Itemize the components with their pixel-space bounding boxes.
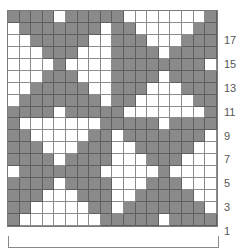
stitch-cell bbox=[43, 107, 55, 119]
stitch-cell bbox=[147, 118, 159, 130]
stitch-cell bbox=[43, 23, 55, 35]
stitch-cell bbox=[101, 83, 113, 95]
stitch-cell bbox=[78, 95, 90, 107]
stitch-cell bbox=[159, 35, 171, 47]
stitch-cell bbox=[205, 23, 217, 35]
stitch-cell bbox=[170, 107, 182, 119]
stitch-cell bbox=[20, 178, 32, 190]
stitch-cell bbox=[20, 118, 32, 130]
stitch-cell bbox=[170, 154, 182, 166]
row-label: 17 bbox=[224, 34, 236, 46]
stitch-cell bbox=[101, 59, 113, 71]
stitch-cell bbox=[136, 142, 148, 154]
stitch-cell bbox=[101, 214, 113, 226]
stitch-cell bbox=[170, 83, 182, 95]
stitch-cell bbox=[182, 95, 194, 107]
stitch-cell bbox=[170, 118, 182, 130]
stitch-cell bbox=[136, 202, 148, 214]
stitch-cell bbox=[8, 202, 20, 214]
stitch-cell bbox=[194, 118, 206, 130]
stitch-cell bbox=[89, 35, 101, 47]
stitch-cell bbox=[78, 166, 90, 178]
stitch-cell bbox=[147, 95, 159, 107]
stitch-cell bbox=[66, 190, 78, 202]
stitch-cell bbox=[136, 11, 148, 23]
stitch-cell bbox=[89, 23, 101, 35]
stitch-cell bbox=[78, 202, 90, 214]
stitch-cell bbox=[136, 166, 148, 178]
stitch-cell bbox=[8, 107, 20, 119]
stitch-cell bbox=[170, 11, 182, 23]
stitch-cell bbox=[124, 142, 136, 154]
stitch-cell bbox=[66, 35, 78, 47]
stitch-cell bbox=[78, 190, 90, 202]
stitch-cell bbox=[159, 130, 171, 142]
stitch-chart-grid bbox=[7, 10, 218, 227]
stitch-cell bbox=[101, 95, 113, 107]
stitch-cell bbox=[124, 95, 136, 107]
stitch-cell bbox=[101, 71, 113, 83]
stitch-cell bbox=[66, 83, 78, 95]
stitch-cell bbox=[31, 142, 43, 154]
stitch-cell bbox=[159, 118, 171, 130]
stitch-cell bbox=[194, 202, 206, 214]
stitch-cell bbox=[66, 130, 78, 142]
stitch-cell bbox=[170, 23, 182, 35]
stitch-cell bbox=[205, 47, 217, 59]
stitch-cell bbox=[101, 107, 113, 119]
stitch-cell bbox=[31, 59, 43, 71]
stitch-cell bbox=[43, 154, 55, 166]
stitch-cell bbox=[89, 118, 101, 130]
stitch-cell bbox=[20, 47, 32, 59]
stitch-cell bbox=[78, 11, 90, 23]
stitch-cell bbox=[54, 202, 66, 214]
stitch-cell bbox=[78, 71, 90, 83]
stitch-cell bbox=[89, 178, 101, 190]
stitch-cell bbox=[182, 107, 194, 119]
stitch-cell bbox=[159, 142, 171, 154]
stitch-cell bbox=[43, 190, 55, 202]
stitch-cell bbox=[159, 23, 171, 35]
stitch-cell bbox=[8, 190, 20, 202]
stitch-cell bbox=[159, 59, 171, 71]
stitch-cell bbox=[8, 23, 20, 35]
stitch-cell bbox=[182, 59, 194, 71]
stitch-cell bbox=[43, 11, 55, 23]
stitch-cell bbox=[124, 130, 136, 142]
stitch-cell bbox=[147, 166, 159, 178]
stitch-cell bbox=[8, 178, 20, 190]
stitch-cell bbox=[101, 178, 113, 190]
stitch-cell bbox=[194, 154, 206, 166]
row-label: 9 bbox=[224, 130, 230, 142]
stitch-cell bbox=[136, 214, 148, 226]
stitch-cell bbox=[112, 118, 124, 130]
stitch-cell bbox=[54, 178, 66, 190]
stitch-cell bbox=[147, 154, 159, 166]
stitch-cell bbox=[43, 166, 55, 178]
stitch-cell bbox=[66, 118, 78, 130]
stitch-cell bbox=[101, 118, 113, 130]
stitch-cell bbox=[194, 47, 206, 59]
stitch-cell bbox=[205, 166, 217, 178]
stitch-cell bbox=[112, 11, 124, 23]
stitch-cell bbox=[66, 59, 78, 71]
stitch-cell bbox=[20, 23, 32, 35]
stitch-cell bbox=[54, 59, 66, 71]
stitch-cell bbox=[194, 83, 206, 95]
stitch-cell bbox=[136, 83, 148, 95]
stitch-cell bbox=[20, 190, 32, 202]
stitch-cell bbox=[136, 35, 148, 47]
stitch-cell bbox=[89, 83, 101, 95]
stitch-cell bbox=[31, 107, 43, 119]
stitch-cell bbox=[194, 214, 206, 226]
stitch-cell bbox=[78, 23, 90, 35]
stitch-cell bbox=[31, 214, 43, 226]
stitch-cell bbox=[43, 142, 55, 154]
stitch-cell bbox=[124, 107, 136, 119]
stitch-cell bbox=[20, 202, 32, 214]
stitch-cell bbox=[170, 178, 182, 190]
stitch-cell bbox=[78, 118, 90, 130]
stitch-cell bbox=[147, 202, 159, 214]
stitch-cell bbox=[43, 118, 55, 130]
stitch-cell bbox=[112, 59, 124, 71]
